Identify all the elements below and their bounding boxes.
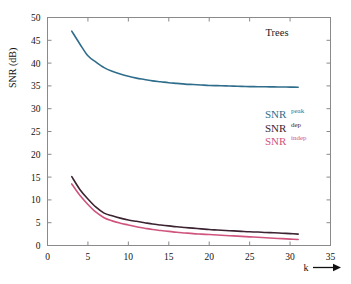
y-tick-label: 30 xyxy=(31,104,41,114)
legend-superscript-peak: peak xyxy=(291,107,305,115)
x-tick-label: 25 xyxy=(245,252,255,262)
y-axis-tick-labels: 05101520253035404550 xyxy=(31,13,41,251)
y-axis-ticks xyxy=(48,18,331,246)
x-tick-label: 15 xyxy=(164,252,174,262)
y-axis-title: SNR (dB) xyxy=(7,48,19,88)
x-tick-label: 20 xyxy=(204,252,214,262)
x-tick-label: 10 xyxy=(124,252,134,262)
x-tick-label: 0 xyxy=(45,252,50,262)
x-axis-ticks xyxy=(48,18,331,246)
y-tick-label: 50 xyxy=(31,13,41,23)
y-tick-label: 10 xyxy=(31,195,41,205)
snr-vs-k-line-chart: 05101520253035404550 05101520253035 SNR … xyxy=(0,0,351,284)
legend-label-dep: SNR xyxy=(265,122,287,134)
y-tick-label: 45 xyxy=(31,36,41,46)
series-line-snr-dep xyxy=(72,177,298,234)
y-tick-label: 0 xyxy=(36,241,41,251)
y-tick-label: 35 xyxy=(31,81,41,91)
x-tick-label: 35 xyxy=(326,252,336,262)
x-axis-tick-labels: 05101520253035 xyxy=(45,252,335,262)
legend-label-indep: SNR xyxy=(265,135,287,147)
plot-frame xyxy=(48,18,331,246)
legend-superscript-dep: dep xyxy=(291,121,302,129)
y-tick-label: 25 xyxy=(31,127,41,137)
legend-label-peak: SNR xyxy=(265,108,287,120)
plot-title: Trees xyxy=(266,27,289,38)
x-axis-variable-label: k xyxy=(304,262,309,273)
x-tick-label: 5 xyxy=(86,252,91,262)
chart-legend: SNRpeakSNRdepSNRindep xyxy=(265,107,307,147)
chart-figure: 05101520253035404550 05101520253035 SNR … xyxy=(0,0,351,284)
x-tick-label: 30 xyxy=(285,252,295,262)
y-tick-label: 15 xyxy=(31,173,41,183)
legend-superscript-indep: indep xyxy=(291,134,307,142)
y-tick-label: 40 xyxy=(31,59,41,69)
x-axis-arrow-icon xyxy=(313,264,341,271)
series-line-snr-peak xyxy=(72,31,298,87)
y-tick-label: 5 xyxy=(36,218,41,228)
series-line-snr-indep xyxy=(72,184,298,240)
y-tick-label: 20 xyxy=(31,150,41,160)
